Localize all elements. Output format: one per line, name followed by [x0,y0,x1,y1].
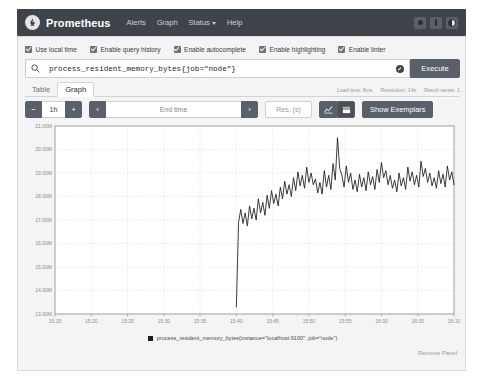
nav-link-status[interactable]: Status [189,18,216,27]
svg-text:15:20: 15:20 [85,318,98,324]
query-stats: Load time: 8ms Resolution: 14s Result se… [337,87,460,96]
svg-text:16.00M: 16.00M [35,240,52,246]
legend-series-label: process_resident_memory_bytes{instance="… [157,335,338,341]
search-icon [25,59,45,78]
remove-panel-button[interactable]: Remove Panel [418,350,457,356]
query-input[interactable]: process_resident_memory_bytes{job="node"… [45,59,390,78]
svg-text:16:10: 16:10 [448,318,460,324]
svg-text:15.00M: 15.00M [35,264,52,270]
svg-text:15:25: 15:25 [121,318,134,324]
legend-swatch [148,336,153,341]
tab-graph[interactable]: Graph [57,82,94,98]
range-decrease-button[interactable]: − [25,101,42,118]
range-increase-button[interactable]: + [65,101,82,118]
stat-resolution: Resolution: 14s [380,87,416,93]
line-chart-icon[interactable] [319,101,337,118]
navbar-right-icons [414,17,458,29]
end-time-input[interactable]: End time [106,101,241,118]
clear-query-button[interactable] [390,59,410,78]
svg-text:15:50: 15:50 [303,318,316,324]
svg-text:15:45: 15:45 [266,318,279,324]
execute-button[interactable]: Execute [410,59,460,78]
query-row: process_resident_memory_bytes{job="node"… [25,59,460,78]
svg-text:17.00M: 17.00M [35,217,52,223]
checkbox-enable-autocomplete[interactable]: Enable autocomplete [174,46,246,53]
checkbox-label: Enable autocomplete [184,46,246,53]
svg-text:18.00M: 18.00M [35,193,52,199]
svg-text:21.00M: 21.00M [35,123,52,129]
time-prev-button[interactable]: ‹ [89,101,106,118]
checkbox-icon [25,46,32,53]
bar-indicator-icon[interactable] [430,17,442,29]
stat-result-series: Result series: 1 [424,87,460,93]
checkbox-icon [90,46,97,53]
nav-link-alerts[interactable]: Alerts [127,18,146,27]
checkbox-label: Use local time [36,46,77,53]
svg-text:16:05: 16:05 [411,318,424,324]
time-series-chart[interactable]: 21.00M20.00M19.00M18.00M17.00M16.00M15.0… [25,122,460,330]
stat-load-time: Load time: 8ms [337,87,372,93]
chart-legend[interactable]: process_resident_memory_bytes{instance="… [25,335,460,341]
prometheus-torch-icon [25,15,40,30]
stacked-chart-icon[interactable] [337,101,355,118]
svg-text:16:00: 16:00 [375,318,388,324]
theme-toggle-icon[interactable] [446,17,458,29]
checkbox-enable-linter[interactable]: Enable linter [338,46,385,53]
svg-text:13.00M: 13.00M [35,311,52,317]
svg-text:19.00M: 19.00M [35,170,52,176]
prometheus-graph-page: Prometheus Alerts Graph Status Help Use … [0,0,483,386]
nav-link-help[interactable]: Help [227,18,242,27]
checkbox-label: Enable query history [100,46,160,53]
checkbox-label: Enable highlighting [270,46,326,53]
checkbox-label: Enable linter [349,46,386,53]
graph-canvas[interactable]: 21.00M20.00M19.00M18.00M17.00M16.00M15.0… [25,122,460,330]
chart-type-toggle [319,101,355,118]
query-panel: Use local time Enable query history Enab… [17,36,466,371]
time-navigator: ‹ End time › [89,101,258,118]
circle-indicator-icon[interactable] [414,17,426,29]
resolution-input[interactable]: Res. (s) [265,101,312,118]
svg-text:15:35: 15:35 [194,318,207,324]
brand-name: Prometheus [46,17,111,29]
checkbox-icon [259,46,266,53]
svg-text:15:55: 15:55 [339,318,352,324]
graph-controls: − 1h + ‹ End time › Res. (s) [25,101,460,118]
checkbox-enable-query-history[interactable]: Enable query history [90,46,161,53]
range-value-input[interactable]: 1h [42,101,65,118]
svg-text:15:30: 15:30 [158,318,171,324]
show-exemplars-button[interactable]: Show Exemplars [362,101,433,118]
clear-circle-icon [396,65,404,73]
checkbox-use-local-time[interactable]: Use local time [25,46,77,53]
nav-link-graph[interactable]: Graph [157,18,178,27]
chevron-down-icon [212,22,216,25]
checkbox-enable-highlighting[interactable]: Enable highlighting [259,46,325,53]
checkbox-icon [338,46,345,53]
navbar: Prometheus Alerts Graph Status Help [17,9,466,36]
time-next-button[interactable]: › [241,101,258,118]
nav-status-label: Status [189,18,210,27]
svg-text:14.00M: 14.00M [35,287,52,293]
result-tabs: Table Graph Load time: 8ms Resolution: 1… [25,82,460,97]
checkbox-icon [174,46,181,53]
options-row: Use local time Enable query history Enab… [25,43,398,55]
svg-text:20.00M: 20.00M [35,146,52,152]
tab-table[interactable]: Table [25,83,57,97]
range-stepper: − 1h + [25,101,82,118]
svg-text:15:15: 15:15 [49,318,62,324]
svg-text:15:40: 15:40 [230,318,243,324]
